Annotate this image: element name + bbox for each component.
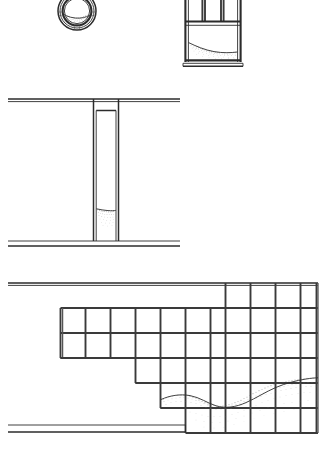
drawing-sheet xyxy=(0,0,324,458)
architectural-drawing-canvas xyxy=(0,0,324,458)
figure-curtain-wall-grid xyxy=(8,283,318,433)
window-sediment-drift xyxy=(189,43,238,59)
pier-sediment-drift xyxy=(96,209,115,226)
figure-oculus xyxy=(58,0,96,30)
figure-pier-section xyxy=(8,99,180,246)
figure-sash-window xyxy=(183,0,243,66)
